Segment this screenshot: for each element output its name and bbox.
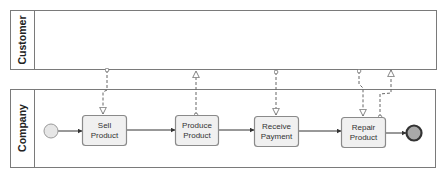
- task-label: Payment: [261, 132, 293, 141]
- task-label: Product: [91, 131, 119, 140]
- task-label: Produce: [182, 121, 212, 130]
- task-sell-product[interactable]: Sell Product: [83, 116, 127, 146]
- pool-label-customer: Customer: [16, 15, 28, 64]
- bpmn-diagram: Customer Company Sell Product Produce Pr…: [0, 0, 447, 182]
- start-event[interactable]: [44, 124, 58, 138]
- pool-label-company: Company: [16, 104, 28, 152]
- task-label: Repair: [352, 123, 376, 132]
- task-repair-product[interactable]: Repair Product: [342, 118, 386, 148]
- end-event[interactable]: [407, 126, 422, 141]
- task-label: Sell: [98, 121, 112, 130]
- pool-customer[interactable]: Customer: [11, 11, 437, 70]
- task-receive-payment[interactable]: Receive Payment: [255, 117, 299, 147]
- task-label: Product: [350, 133, 378, 142]
- task-produce-product[interactable]: Produce Product: [176, 116, 219, 146]
- task-label: Receive: [262, 122, 291, 131]
- task-label: Product: [183, 131, 211, 140]
